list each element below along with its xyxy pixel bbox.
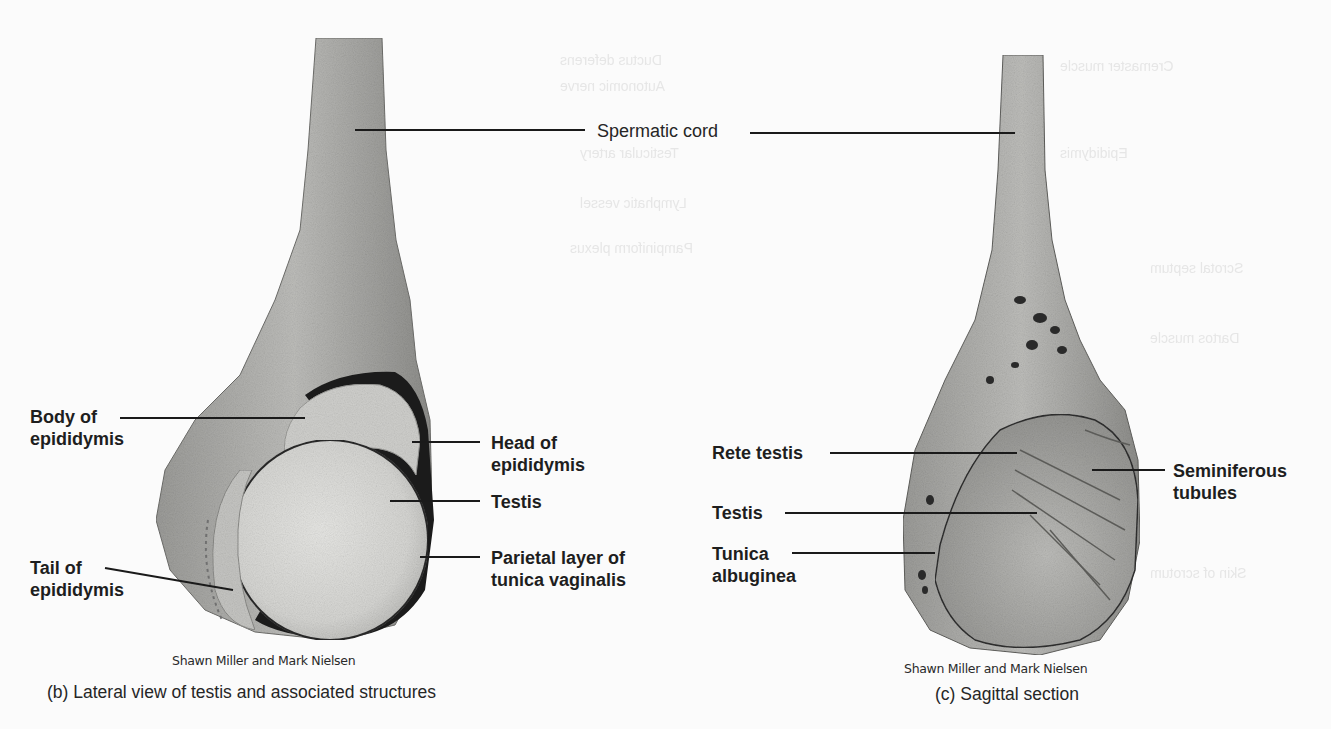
- sagittal-section-specimen: [903, 55, 1140, 655]
- label-head-of-epididymis: Head of epididymis: [491, 432, 585, 476]
- label-testis-c: Testis: [712, 502, 763, 524]
- lateral-view-specimen: [156, 38, 434, 640]
- caption-panel-c: (c) Sagittal section: [935, 684, 1079, 705]
- label-rete-testis: Rete testis: [712, 442, 803, 464]
- label-spermatic-cord: Spermatic cord: [597, 120, 718, 142]
- label-body-of-epididymis: Body of epididymis: [30, 406, 124, 450]
- caption-panel-b: (b) Lateral view of testis and associate…: [47, 682, 436, 703]
- label-tail-of-epididymis: Tail of epididymis: [30, 557, 124, 601]
- label-seminiferous-tubules: Seminiferous tubules: [1173, 460, 1287, 504]
- anatomy-figure: Ductus deferens Autonomic nerve Testicul…: [0, 0, 1331, 729]
- photo-credit-b: Shawn Miller and Mark Nielsen: [172, 653, 355, 668]
- illustration-layer: [0, 0, 1331, 729]
- photo-credit-c: Shawn Miller and Mark Nielsen: [904, 661, 1087, 676]
- label-tunica-albuginea: Tunica albuginea: [712, 543, 796, 587]
- label-testis-b: Testis: [491, 491, 542, 513]
- label-parietal-layer-tunica-vaginalis: Parietal layer of tunica vaginalis: [491, 547, 626, 591]
